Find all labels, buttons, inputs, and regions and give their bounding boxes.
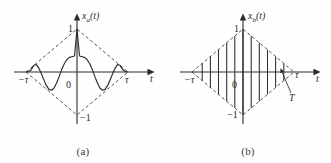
x-axis-label-a: t	[150, 74, 153, 84]
panel-b: xb(t) 1 −1 −τ τ 0 t T (b)	[165, 0, 331, 163]
y-axis-label-a: xa(t)	[82, 11, 99, 24]
x-axis-label-b: t	[316, 74, 319, 84]
period-leader-line-b	[282, 72, 291, 93]
x-tick-left-label-a: −τ	[18, 75, 28, 85]
y-axis-label-b: xb(t)	[248, 11, 265, 24]
panel-a: xa(t) 1 −1 −τ τ 0 t (a)	[0, 0, 166, 163]
panel-caption-b: (b)	[165, 145, 331, 157]
origin-label-b: 0	[232, 80, 237, 90]
x-tick-left-label-b: −τ	[184, 75, 194, 85]
origin-label-a: 0	[66, 80, 71, 90]
y-tick-bottom-label-b: −1	[227, 110, 238, 120]
figure-root: xa(t) 1 −1 −τ τ 0 t (a)	[0, 0, 331, 163]
y-tick-bottom-label-a: −1	[80, 113, 91, 123]
y-tick-top-label-a: 1	[68, 24, 73, 34]
y-tick-top-label-b: 1	[234, 24, 239, 34]
period-label-b: T	[289, 93, 295, 103]
x-tick-right-label-b: τ	[295, 70, 299, 80]
panel-caption-a: (a)	[0, 145, 166, 157]
x-tick-right-label-a: τ	[125, 75, 129, 85]
